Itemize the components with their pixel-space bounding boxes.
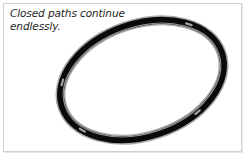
figure-panel: Closed paths continue endlessly.: [0, 0, 246, 160]
ellipse-ring-group: [44, 3, 239, 152]
closed-path-illustration: [3, 3, 242, 152]
